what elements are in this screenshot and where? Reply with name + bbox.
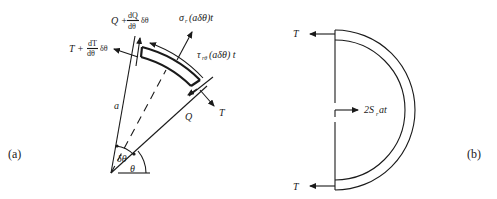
label-shear-bottom: Q [185, 111, 193, 122]
svg-text:δθ: δθ [141, 16, 149, 25]
theta-arc [138, 151, 146, 173]
element-upper-face [141, 47, 142, 57]
svg-text:dQ: dQ [128, 11, 138, 20]
svg-text:τ: τ [197, 49, 201, 60]
dtheta-tick-lower [132, 152, 135, 155]
shear-bottom-arrow [188, 89, 197, 95]
label-tension-upper: T [293, 28, 300, 39]
caption-b: (b) [467, 147, 481, 161]
element-lower-face [191, 80, 200, 86]
normal-stress-arrow [177, 32, 192, 60]
caption-a: (a) [8, 147, 21, 161]
label-normal-stress: σ r (aδθ)t [179, 12, 213, 24]
label-shear-stress: τ rθ (aδθ) t [197, 49, 236, 61]
label-shear-top: Q + dQ dθ δθ [111, 11, 149, 31]
svg-text:(aδθ) t: (aδθ) t [209, 49, 236, 61]
svg-text:Q +: Q + [111, 15, 127, 26]
svg-text:(aδθ)t: (aδθ)t [189, 12, 213, 24]
label-theta: θ [130, 163, 135, 174]
svg-text:dT: dT [88, 39, 97, 48]
svg-text:rθ: rθ [202, 55, 207, 61]
element-inner-wall [141, 57, 191, 86]
label-resultant: 2S r at [364, 104, 387, 117]
shear-top-arrow [136, 38, 140, 66]
svg-text:2S: 2S [364, 104, 374, 115]
panel-b: T T 2S r at (b) [293, 28, 481, 192]
svg-text:at: at [379, 104, 387, 115]
svg-text:dθ: dθ [128, 22, 136, 31]
dtheta-tick-upper [115, 144, 118, 147]
label-tension-lower: T [293, 181, 300, 192]
svg-text:δθ: δθ [100, 44, 108, 53]
label-radius-a: a [114, 100, 119, 111]
tension-bottom-arrow [200, 90, 214, 106]
label-dtheta: δθ [117, 153, 127, 164]
svg-text:dθ: dθ [87, 49, 95, 58]
svg-text:T +: T + [69, 43, 84, 54]
diagram-canvas: (a) δθ θ a T Q [0, 0, 497, 199]
tension-top-arrow [114, 49, 138, 57]
panel-a: (a) δθ θ a T Q [8, 11, 236, 174]
label-tension-bottom: T [219, 107, 226, 118]
lower-face-cross [189, 77, 213, 96]
label-tension-top: T + dT dθ δθ [69, 39, 108, 58]
svg-text:r: r [185, 18, 188, 24]
